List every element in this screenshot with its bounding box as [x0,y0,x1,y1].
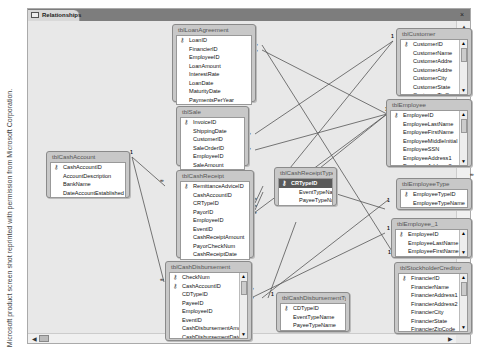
field-item[interactable]: FinancierAddress1 [399,291,467,300]
table-tblCashDisbursementType[interactable]: tblCashDisbursementType CDTypeID EventTy… [276,292,350,332]
field-item[interactable]: CustomerID [401,40,467,49]
field-item[interactable]: SaleOrderID [181,144,244,153]
field-item[interactable]: CDTypeID [281,304,345,313]
close-icon[interactable]: × [458,11,466,19]
scroll-thumb[interactable] [241,281,247,295]
table-tblCashReceiptType[interactable]: tblCashReceiptType CRTypeID EventTypeNam… [274,167,337,206]
field-item[interactable]: LoanID [177,36,251,45]
table-tblCashReceipt[interactable]: tblCashReceipt RemittanceAdviceID CashAc… [176,170,254,258]
scroll-down-icon[interactable]: ▼ [461,250,466,255]
table-scrollbar[interactable]: ▲▼ [239,273,247,338]
table-tblCustomer[interactable]: tblCustomer CustomerID CustomerName Cust… [396,28,472,96]
field-item[interactable]: EventTypeName [279,188,332,197]
field-item[interactable]: PayeeTypeName [279,196,332,205]
field-item[interactable]: FinancierID [399,274,467,283]
field-item[interactable]: EventID [170,316,247,325]
field-item[interactable]: FinancierCity [399,308,467,317]
field-item[interactable]: PaymentsPerYear [177,96,251,105]
field-item[interactable]: FinancierZipCode [399,325,467,332]
field-item[interactable]: EmployeeID [396,230,467,239]
field-item[interactable]: EventID [181,225,249,234]
field-item[interactable]: EmployeeSSN [391,145,467,154]
scroll-thumb[interactable] [39,335,49,342]
field-item[interactable]: CustomerState [401,83,467,92]
field-item[interactable]: EmployeeID [391,111,467,120]
scroll-up-icon[interactable]: ▲ [461,41,466,46]
table-tblLoanAgreement[interactable]: tblLoanAgreement LoanID FinancierID Empl… [172,24,256,102]
field-item[interactable]: CustomerName [401,49,467,58]
field-item[interactable]: CustomerAddre [401,66,467,75]
scroll-up-icon[interactable]: ▲ [461,112,466,117]
field-item[interactable]: EmployeeTypeName [401,199,467,208]
field-item[interactable]: EmployeeFirstName [391,128,467,137]
field-item[interactable]: EmployeeLastName [396,239,467,248]
table-tblEmployee[interactable]: tblEmployee EmployeeID EmployeeLastName … [386,99,472,167]
table-tblStockholderCreditor[interactable]: tblStockholderCreditor FinancierID Finan… [394,262,472,334]
scroll-up-icon[interactable]: ▲ [461,275,466,280]
table-scrollbar[interactable]: ▲▼ [459,40,467,94]
field-item[interactable]: CashDisbursementAmou [170,324,247,333]
field-item-selected[interactable]: CRTypeID [279,179,332,188]
field-item[interactable]: DateAccountEstablished [51,189,125,198]
scroll-thumb[interactable] [461,282,467,296]
table-tblSale[interactable]: tblSale InvoiceID ShippingDate CustomerI… [176,106,249,166]
scroll-thumb[interactable] [461,48,467,62]
scroll-down-icon[interactable]: ▼ [461,159,466,164]
field-item[interactable]: CustomerCity [401,74,467,83]
scroll-up-icon[interactable]: ▲ [241,274,246,279]
field-item[interactable]: FinancierID [177,45,251,54]
table-scrollbar[interactable]: ▲▼ [459,230,467,256]
field-item[interactable]: LoanAmount [177,62,251,71]
table-tblEmployee_1[interactable]: tblEmployee_1 EmployeeID EmployeeLastNam… [391,218,472,258]
field-item[interactable]: CashAccountID [181,191,249,200]
field-item[interactable]: CashAccountID [51,163,125,172]
tab-relationships[interactable]: Relationships [28,10,80,21]
table-tblEmployeeType[interactable]: tblEmployeeType EmployeeTypeID EmployeeT… [396,178,472,210]
field-item[interactable]: SaleAmount [181,161,244,170]
field-item[interactable]: EmployeeLastName [391,120,467,129]
field-item[interactable]: LoanDate [177,79,251,88]
field-item[interactable]: PayorCheckNum [181,242,249,251]
field-item[interactable]: CustomerID [181,135,244,144]
field-item[interactable]: CashReceiptDate [181,250,249,259]
field-item[interactable]: EmployeeID [181,216,249,225]
field-item[interactable]: EmployeeID [177,53,251,62]
field-item[interactable]: EmployeeAddress1 [391,154,467,163]
table-tblCashAccount[interactable]: tblCashAccount CashAccountID AccountDesc… [46,151,130,198]
field-item[interactable]: PayorID [181,208,249,217]
field-item[interactable]: CashReceiptAmount [181,233,249,242]
field-item[interactable]: EmployeeAddress2 [391,162,467,166]
field-item[interactable]: PayeeTypeName [281,321,345,330]
field-item[interactable]: EmployeeID [181,152,244,161]
field-item[interactable]: InvoiceID [181,118,244,127]
field-item[interactable]: CustomerZipCo [401,91,467,95]
scroll-left-icon[interactable]: ◀ [30,335,38,343]
field-item[interactable]: EmployeeTypeID [401,190,467,199]
field-item[interactable]: PayeeID [170,299,247,308]
scroll-down-icon[interactable]: ▼ [241,332,246,337]
field-item[interactable]: EmployeeFirstName [396,247,467,256]
field-item[interactable]: MaturityDate [177,87,251,96]
field-item[interactable]: FinancierName [399,283,467,292]
scroll-up-icon[interactable]: ▲ [461,231,466,236]
field-item[interactable]: EventTypeName [281,313,345,322]
table-tblCashDisbursement[interactable]: tblCashDisbursement CheckNum CashAccount… [165,261,252,341]
field-item[interactable]: CRTypeID [181,199,249,208]
field-item[interactable]: RemittanceAdviceID [181,182,249,191]
scroll-down-icon[interactable]: ▼ [461,325,466,330]
field-item[interactable]: CashAccountID [170,282,247,291]
field-item[interactable]: CDTypeID [170,290,247,299]
field-item[interactable]: CashDisbursementDate [170,333,247,340]
field-item[interactable]: EmployeeMiddleInitial [391,137,467,146]
field-item[interactable]: ShippingDate [181,127,244,136]
field-item[interactable]: CustomerAddre [401,57,467,66]
field-item[interactable]: AccountDescription [51,172,125,181]
field-item[interactable]: FinancierState [399,317,467,326]
scroll-down-icon[interactable]: ▼ [461,88,466,93]
field-item[interactable]: EmployeeID [170,307,247,316]
field-item[interactable]: InterestRate [177,70,251,79]
field-item[interactable]: BankName [51,180,125,189]
scroll-right-icon[interactable]: ▶ [446,335,454,343]
table-scrollbar[interactable]: ▲▼ [459,274,467,331]
table-scrollbar[interactable]: ▲▼ [459,111,467,165]
